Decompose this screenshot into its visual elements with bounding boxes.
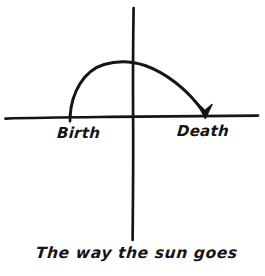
vertical-axis-line <box>133 8 134 240</box>
sun-path-arc <box>70 62 205 117</box>
label-death: Death <box>176 122 229 140</box>
diagram-caption: The way the sun goes <box>35 244 238 262</box>
label-birth: Birth <box>56 124 101 142</box>
